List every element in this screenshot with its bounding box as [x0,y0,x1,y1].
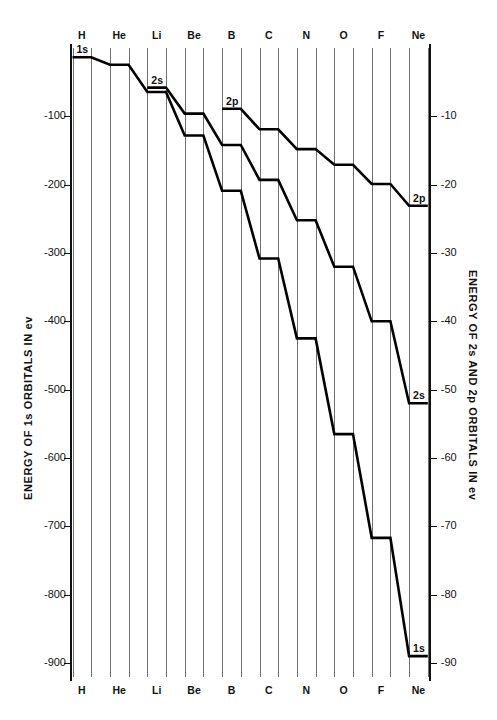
series-label-1s-h: 1s [77,44,89,55]
left-axis-title: ENERGY OF 1s ORBITALS IN ev [22,316,34,500]
orbital-energy-chart: ENERGY OF 1s ORBITALS IN ev ENERGY OF 2s… [0,0,497,720]
left-axis-tick-label: -800 [26,589,66,600]
right-axis-title: ENERGY OF 2s AND 2p ORBITALS IN ev [467,270,479,500]
plot-area [71,48,445,677]
element-label-bottom-ne: Ne [412,685,425,696]
right-axis-tick [430,663,437,664]
series-label-1s-ne: 1s [413,643,425,654]
element-label-top-h: H [78,30,86,41]
right-axis-tick-label: -70 [441,520,457,531]
right-axis-tick-label: -20 [441,179,457,190]
element-label-bottom-li: Li [152,685,161,696]
element-label-bottom-o: O [340,685,348,696]
right-axis-tick-label: -50 [441,384,457,395]
right-axis-tick-label: -60 [441,452,457,463]
right-axis-tick-label: -10 [441,110,457,121]
right-axis-tick-label: -30 [441,247,457,258]
element-label-top-o: O [340,30,348,41]
right-axis-tick [430,390,437,391]
left-axis-tick-label: -500 [26,384,66,395]
element-label-top-n: N [302,30,310,41]
element-label-bottom-b: B [228,685,236,696]
series-label-2s-ne: 2s [413,390,425,401]
left-axis-tick-label: -200 [26,179,66,190]
element-label-top-c: C [265,30,273,41]
series-2p-curve [222,109,428,206]
left-axis-tick-label: -600 [26,452,66,463]
element-label-top-f: F [378,30,384,41]
series-1s-curve [73,57,428,656]
series-label-2s-li: 2s [151,75,163,86]
right-axis-tick-label: -40 [441,315,457,326]
right-axis-tick [430,526,437,527]
series-label-2p-b: 2p [226,96,238,107]
orbital-curves [71,48,445,677]
element-label-bottom-f: F [378,685,384,696]
right-axis-tick-label: -80 [441,589,457,600]
element-label-bottom-be: Be [187,685,200,696]
element-label-top-ne: Ne [412,30,425,41]
left-axis-tick-label: -400 [26,315,66,326]
right-axis-tick [430,321,437,322]
right-axis-tick [430,185,437,186]
right-axis-tick-label: -90 [441,657,457,668]
element-label-top-b: B [228,30,236,41]
element-label-bottom-h: H [78,685,86,696]
element-label-bottom-n: N [302,685,310,696]
series-label-2p-ne: 2p [413,193,425,204]
left-axis-tick-label: -300 [26,247,66,258]
element-label-top-he: He [113,30,126,41]
right-axis-tick [430,595,437,596]
right-axis-tick [430,458,437,459]
element-label-top-be: Be [187,30,200,41]
element-label-bottom-c: C [265,685,273,696]
element-label-top-li: Li [152,30,161,41]
left-axis-tick-label: -100 [26,110,66,121]
right-axis-tick [430,116,437,117]
left-axis-tick-label: -900 [26,657,66,668]
element-label-bottom-he: He [113,685,126,696]
left-axis-tick-label: -700 [26,520,66,531]
right-axis-tick [430,253,437,254]
